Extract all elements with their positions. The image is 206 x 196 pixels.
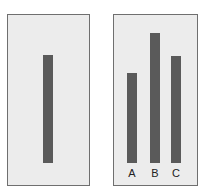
bar-b bbox=[150, 33, 160, 163]
label-c: C bbox=[170, 167, 182, 179]
label-b: B bbox=[149, 167, 161, 179]
left-chart-panel bbox=[7, 14, 90, 186]
bar-c bbox=[171, 56, 181, 163]
single-bar bbox=[43, 55, 53, 163]
bar-a bbox=[127, 73, 137, 163]
label-a: A bbox=[126, 167, 138, 179]
right-chart-panel: A B C bbox=[113, 14, 198, 186]
